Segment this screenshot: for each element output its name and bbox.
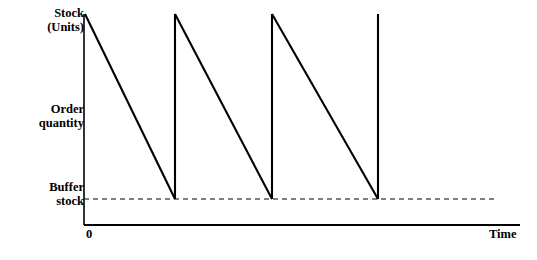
- buffer-stock-label-line1: Buffer: [49, 180, 84, 194]
- order-quantity-label-line2: quantity: [39, 116, 84, 130]
- y-axis-label-buffer-stock: Buffer stock: [49, 180, 84, 208]
- stock-level-chart: Stock (Units) Order quantity Buffer stoc…: [0, 0, 537, 260]
- buffer-stock-label-line2: stock: [49, 194, 84, 208]
- depletion-segment-2: [175, 14, 272, 199]
- chart-plot-area: [0, 0, 537, 260]
- stock-level-series: [85, 14, 378, 199]
- depletion-segment-3: [272, 14, 378, 199]
- stock-label-line2: (Units): [47, 20, 84, 34]
- x-axis-label-time: Time: [489, 227, 517, 241]
- axis-origin-label: 0: [86, 227, 92, 241]
- y-axis-label-stock-units: Stock (Units): [47, 6, 84, 34]
- y-axis-label-order-quantity: Order quantity: [39, 102, 84, 130]
- stock-label-line1: Stock: [47, 6, 84, 20]
- order-quantity-label-line1: Order: [39, 102, 84, 116]
- depletion-segment-1: [85, 14, 175, 199]
